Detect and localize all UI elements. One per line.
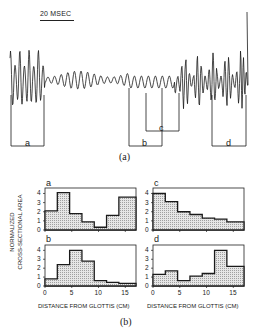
x-tick-label: 15 [229,289,236,296]
y-tick-label: 1 [37,273,41,280]
y-tick-label: 4 [37,246,41,253]
x-tick-label: 0 [43,289,47,296]
y-tick-label: 2 [37,208,41,215]
y-axis-label-line2: CROSS-SECTIONAL AREA [16,190,24,274]
y-axis-label-line1: NORMALIZED [8,190,16,274]
panel-title-d: d [154,234,159,244]
x-tick-label: 0 [151,289,155,296]
y-tick-label: 1 [145,273,149,280]
y-tick-label: 4 [145,189,149,196]
y-tick-label: 2 [145,208,149,215]
y-tick-label: 2 [145,264,149,271]
y-tick-label: 1 [37,217,41,224]
caption-b: (b) [120,316,132,327]
y-tick-label: 3 [145,255,149,262]
area-function-c [153,193,244,230]
area-function-b [45,250,136,286]
x-tick-label: 10 [95,289,102,296]
x-tick-label: 5 [70,289,74,296]
y-tick-label: 3 [37,255,41,262]
panel-title-a: a [46,178,51,188]
area-function-a [45,193,136,230]
y-tick-label: 1 [145,217,149,224]
x-axis-label-left: DISTANCE FROM GLOTTIS (CM) [38,303,130,309]
y-tick-label: 2 [37,264,41,271]
x-tick-label: 5 [178,289,182,296]
panel-title-c: c [154,178,159,188]
y-tick-label: 3 [37,199,41,206]
y-tick-label: 4 [37,189,41,196]
x-axis-label-right: DISTANCE FROM GLOTTIS (CM) [147,303,239,309]
y-tick-label: 0 [37,282,41,289]
x-tick-label: 15 [121,289,128,296]
y-axis-label: NORMALIZED CROSS-SECTIONAL AREA [8,190,24,274]
y-tick-label: 3 [145,199,149,206]
y-tick-label: 4 [145,246,149,253]
area-function-d [153,250,244,286]
panel-title-b: b [46,234,51,244]
y-tick-label: 0 [145,226,149,233]
y-tick-label: 0 [37,226,41,233]
x-tick-label: 10 [203,289,210,296]
y-tick-label: 0 [145,282,149,289]
